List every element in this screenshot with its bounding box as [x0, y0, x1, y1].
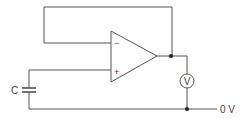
ground-rail-wire: [29, 92, 217, 109]
output-junction-dot: [169, 54, 173, 58]
voltmeter-label: V: [184, 76, 191, 87]
ground-rail-label: 0 V: [220, 104, 235, 115]
noninverting-input-sign: +: [114, 67, 119, 77]
ground-junction-dot: [185, 107, 189, 111]
feedback-wire: [44, 7, 172, 56]
capacitor-label: C: [11, 85, 18, 96]
noninverting-wire: [29, 70, 111, 88]
circuit-diagram: − + V C 0 V: [0, 0, 242, 119]
inverting-input-sign: −: [114, 38, 119, 48]
output-wire: [157, 56, 187, 74]
